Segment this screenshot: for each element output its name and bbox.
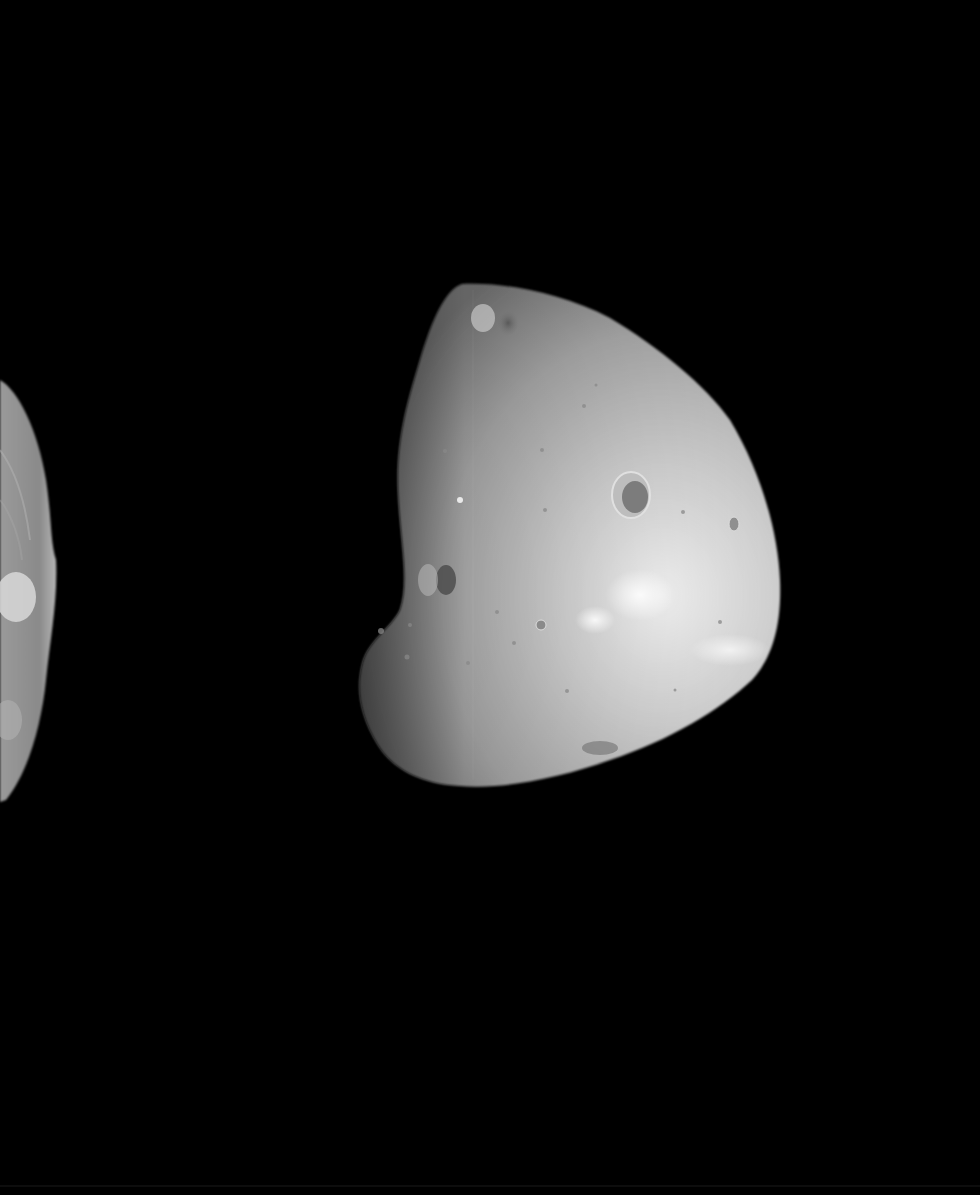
bright-patch (606, 569, 674, 621)
top-crater (496, 310, 518, 336)
bright-patch (690, 634, 770, 666)
bottom-crater (582, 741, 618, 755)
bright-patch (575, 606, 615, 634)
left-crater (436, 565, 456, 595)
space-photo (0, 0, 980, 1195)
